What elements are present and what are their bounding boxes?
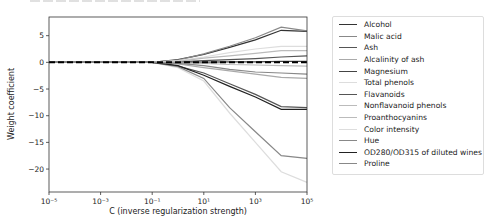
y-tick-label: −10: [28, 111, 44, 120]
legend-label: Nonflavanoid phenols: [364, 101, 446, 110]
series-line: [49, 27, 307, 62]
legend-item: Hue: [333, 135, 483, 147]
legend-label: Hue: [364, 136, 379, 145]
series-line: [49, 62, 307, 107]
legend-label: Alcalinity of ash: [364, 55, 424, 64]
legend-line-swatch: [339, 24, 357, 25]
y-tick-label: 0: [39, 58, 44, 67]
x-tick-label: 10⁻⁵: [41, 197, 58, 206]
legend-item: OD280/OD315 of diluted wines: [333, 147, 483, 159]
legend-item: Malic acid: [333, 31, 483, 43]
series-line: [49, 62, 307, 158]
legend-label: Magnesium: [364, 67, 408, 76]
legend-line-swatch: [339, 94, 357, 95]
legend-item: Proanthocyanins: [333, 112, 483, 124]
legend-item: Ash: [333, 42, 483, 54]
legend-line-swatch: [339, 47, 357, 48]
legend-line-swatch: [339, 152, 357, 153]
legend-item: Total phenols: [333, 77, 483, 89]
plot-area: 50−5−10−15−2010⁻⁵10⁻³10⁻¹10¹10³10⁵: [28, 17, 313, 206]
legend-item: Nonflavanoid phenols: [333, 100, 483, 112]
series-line: [49, 62, 307, 182]
y-axis-label: Weight coefficient: [7, 68, 16, 140]
legend-item: Alcalinity of ash: [333, 54, 483, 66]
x-axis-label: C (inverse regularization strength): [109, 207, 247, 216]
legend-line-swatch: [339, 163, 357, 164]
x-tick-label: 10⁻¹: [144, 197, 161, 206]
legend-label: Proanthocyanins: [364, 113, 427, 122]
legend-item: Magnesium: [333, 65, 483, 77]
legend-label: OD280/OD315 of diluted wines: [364, 148, 482, 157]
legend-label: Alcohol: [364, 20, 392, 29]
cropped-title-text: [30, 0, 200, 2]
legend-label: Malic acid: [364, 32, 402, 41]
legend-line-swatch: [339, 105, 357, 106]
legend-line-swatch: [339, 36, 357, 37]
legend-label: Ash: [364, 43, 378, 52]
x-tick-label: 10¹: [198, 197, 211, 206]
y-tick-label: −15: [28, 138, 44, 147]
y-tick-label: −5: [33, 85, 44, 94]
legend-label: Proline: [364, 159, 390, 168]
legend-line-swatch: [339, 59, 357, 60]
legend-line-swatch: [339, 82, 357, 83]
legend-item: Flavanoids: [333, 89, 483, 101]
legend-label: Color intensity: [364, 125, 419, 134]
y-tick-label: −20: [28, 165, 44, 174]
legend-line-swatch: [339, 71, 357, 72]
legend-item: Color intensity: [333, 123, 483, 135]
legend: AlcoholMalic acidAshAlcalinity of ashMag…: [332, 16, 484, 175]
x-tick-label: 10⁻³: [92, 197, 109, 206]
legend-label: Flavanoids: [364, 90, 405, 99]
y-tick-label: 5: [39, 31, 44, 40]
x-tick-label: 10⁵: [301, 197, 314, 206]
legend-line-swatch: [339, 140, 357, 141]
legend-label: Total phenols: [364, 78, 414, 87]
legend-line-swatch: [339, 129, 357, 130]
legend-line-swatch: [339, 117, 357, 118]
legend-item: Alcohol: [333, 19, 483, 31]
x-tick-label: 10³: [249, 197, 262, 206]
legend-item: Proline: [333, 158, 483, 170]
series-line: [49, 62, 307, 109]
axes-frame: [49, 17, 307, 192]
